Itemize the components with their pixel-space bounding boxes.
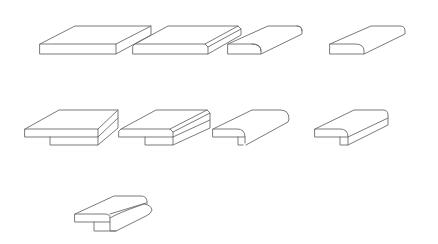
profile-outline — [40, 44, 116, 54]
profile-outline — [98, 118, 118, 137]
profile-outline — [252, 44, 261, 51]
profile-outline — [228, 44, 261, 54]
profile-outline — [238, 137, 243, 145]
profile-outline — [116, 26, 151, 54]
edge-profile-ogee-stepped-laminate — [75, 196, 152, 231]
profile-outline — [330, 26, 405, 54]
edge-profile-mitered-bevel-apron — [119, 110, 210, 145]
edge-profile-diagram — [0, 0, 438, 244]
profile-outline — [170, 110, 207, 129]
edge-profile-bevel-edge — [133, 26, 241, 54]
edge-profile-full-bullnose-round — [330, 26, 405, 54]
profile-outline — [94, 204, 152, 231]
profile-outline — [119, 129, 173, 137]
profile-outline — [145, 137, 173, 145]
profile-outline — [133, 44, 208, 54]
profile-outline — [340, 137, 348, 145]
profile-outline — [25, 129, 98, 137]
profile-outline — [110, 203, 146, 214]
profile-outline — [25, 110, 118, 129]
profile-outline — [208, 29, 241, 54]
profile-outline — [50, 137, 98, 145]
profile-outline — [330, 44, 364, 54]
edge-profile-square-edge — [40, 26, 151, 54]
profile-outline — [110, 222, 116, 231]
profile-outline — [75, 214, 110, 222]
edge-profile-mitered-bullnose-apron — [213, 110, 289, 145]
profile-outline — [315, 110, 388, 145]
profile-outline — [40, 26, 151, 44]
profile-outline — [75, 196, 147, 214]
profile-outline — [297, 26, 302, 31]
profile-outline — [213, 110, 289, 145]
edge-profile-mitered-square-apron — [25, 110, 118, 145]
profile-outline — [213, 129, 245, 137]
profile-outline — [315, 129, 348, 137]
edge-profile-mitered-half-bullnose-apron — [315, 110, 388, 145]
